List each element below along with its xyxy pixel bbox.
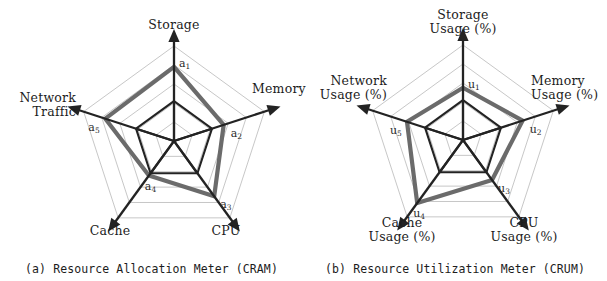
- axis-label-cpu: CPU: [196, 224, 256, 238]
- axis-label-storage-usage: StorageUsage (%): [413, 8, 513, 36]
- axis-label-memory-usage: MemoryUsage (%): [531, 74, 607, 102]
- axis-label-network-traffic: NetworkTraffic: [0, 91, 76, 118]
- axis-label-cache: Cache: [80, 224, 140, 238]
- axis-label-cpu-usage: CPUUsage (%): [485, 216, 563, 244]
- vertex-label-a3: a3: [220, 198, 231, 211]
- vertex-label-u3: u3: [498, 182, 510, 195]
- panel-caption-b: (b) Resource Utilization Meter (CRUM): [303, 262, 607, 276]
- radar-chart-cram: [0, 0, 303, 281]
- vertex-label-u5: u5: [390, 124, 402, 137]
- radar-panel-crum: StorageUsage (%) MemoryUsage (%) CPUUsag…: [303, 0, 607, 281]
- vertex-label-a4: a4: [145, 180, 156, 193]
- vertex-label-u2: u2: [530, 123, 542, 136]
- vertex-label-a2: a2: [231, 127, 242, 140]
- vertex-label-a1: a1: [179, 57, 190, 70]
- panel-caption-a: (a) Resource Allocation Meter (CRAM): [0, 262, 303, 276]
- vertex-label-u4: u4: [413, 207, 425, 220]
- vertex-label-a5: a5: [88, 121, 99, 134]
- vertex-label-u1: u1: [468, 78, 480, 91]
- axis-label-cache-usage: CacheUsage (%): [363, 216, 441, 244]
- axis-label-memory: Memory: [252, 82, 307, 96]
- radar-panel-cram: Storage Memory CPU Cache NetworkTraffic …: [0, 0, 303, 281]
- axis-label-network-usage: NetworkUsage (%): [303, 74, 387, 102]
- figure-container: Storage Memory CPU Cache NetworkTraffic …: [0, 0, 607, 281]
- axis-label-storage: Storage: [124, 18, 224, 32]
